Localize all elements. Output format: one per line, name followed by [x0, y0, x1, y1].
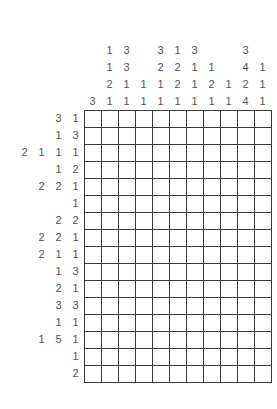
- grid-cell-r5-c7[interactable]: [187, 179, 204, 196]
- grid-cell-r12-c1[interactable]: [85, 298, 102, 315]
- grid-cell-r8-c11[interactable]: [255, 230, 272, 247]
- grid-cell-r1-c2[interactable]: [102, 111, 119, 128]
- grid-cell-r16-c10[interactable]: [238, 366, 255, 383]
- grid-cell-r10-c10[interactable]: [238, 264, 255, 281]
- grid-cell-r15-c6[interactable]: [170, 349, 187, 366]
- grid-cell-r14-c8[interactable]: [204, 332, 221, 349]
- grid-cell-r9-c4[interactable]: [136, 247, 153, 264]
- grid-cell-r16-c8[interactable]: [204, 366, 221, 383]
- grid-cell-r2-c7[interactable]: [187, 128, 204, 145]
- grid-cell-r11-c10[interactable]: [238, 281, 255, 298]
- grid-cell-r1-c6[interactable]: [170, 111, 187, 128]
- grid-cell-r14-c11[interactable]: [255, 332, 272, 349]
- grid-cell-r2-c4[interactable]: [136, 128, 153, 145]
- grid-cell-r13-c6[interactable]: [170, 315, 187, 332]
- grid-cell-r11-c5[interactable]: [153, 281, 170, 298]
- grid-cell-r6-c7[interactable]: [187, 196, 204, 213]
- grid-cell-r5-c9[interactable]: [221, 179, 238, 196]
- grid-cell-r5-c11[interactable]: [255, 179, 272, 196]
- grid-cell-r15-c7[interactable]: [187, 349, 204, 366]
- grid-cell-r16-c4[interactable]: [136, 366, 153, 383]
- grid-cell-r16-c7[interactable]: [187, 366, 204, 383]
- grid-cell-r3-c2[interactable]: [102, 145, 119, 162]
- grid-cell-r2-c8[interactable]: [204, 128, 221, 145]
- nonogram-grid[interactable]: [84, 110, 272, 383]
- grid-cell-r15-c5[interactable]: [153, 349, 170, 366]
- grid-cell-r6-c5[interactable]: [153, 196, 170, 213]
- grid-cell-r5-c8[interactable]: [204, 179, 221, 196]
- grid-cell-r8-c8[interactable]: [204, 230, 221, 247]
- grid-cell-r9-c2[interactable]: [102, 247, 119, 264]
- grid-cell-r10-c9[interactable]: [221, 264, 238, 281]
- grid-cell-r4-c11[interactable]: [255, 162, 272, 179]
- grid-cell-r12-c6[interactable]: [170, 298, 187, 315]
- grid-cell-r14-c6[interactable]: [170, 332, 187, 349]
- grid-cell-r3-c11[interactable]: [255, 145, 272, 162]
- grid-cell-r9-c6[interactable]: [170, 247, 187, 264]
- grid-cell-r11-c4[interactable]: [136, 281, 153, 298]
- grid-cell-r16-c11[interactable]: [255, 366, 272, 383]
- grid-cell-r1-c9[interactable]: [221, 111, 238, 128]
- grid-cell-r4-c8[interactable]: [204, 162, 221, 179]
- grid-cell-r3-c10[interactable]: [238, 145, 255, 162]
- grid-cell-r14-c1[interactable]: [85, 332, 102, 349]
- grid-cell-r4-c7[interactable]: [187, 162, 204, 179]
- grid-cell-r3-c4[interactable]: [136, 145, 153, 162]
- grid-cell-r8-c6[interactable]: [170, 230, 187, 247]
- grid-cell-r9-c9[interactable]: [221, 247, 238, 264]
- grid-cell-r6-c10[interactable]: [238, 196, 255, 213]
- grid-cell-r1-c10[interactable]: [238, 111, 255, 128]
- grid-cell-r2-c10[interactable]: [238, 128, 255, 145]
- grid-cell-r15-c8[interactable]: [204, 349, 221, 366]
- grid-cell-r6-c11[interactable]: [255, 196, 272, 213]
- grid-cell-r10-c1[interactable]: [85, 264, 102, 281]
- grid-cell-r8-c5[interactable]: [153, 230, 170, 247]
- grid-cell-r2-c3[interactable]: [119, 128, 136, 145]
- grid-cell-r4-c4[interactable]: [136, 162, 153, 179]
- grid-cell-r4-c2[interactable]: [102, 162, 119, 179]
- grid-cell-r10-c8[interactable]: [204, 264, 221, 281]
- grid-cell-r7-c7[interactable]: [187, 213, 204, 230]
- grid-cell-r13-c3[interactable]: [119, 315, 136, 332]
- grid-cell-r6-c3[interactable]: [119, 196, 136, 213]
- grid-cell-r13-c8[interactable]: [204, 315, 221, 332]
- grid-cell-r11-c6[interactable]: [170, 281, 187, 298]
- grid-cell-r12-c7[interactable]: [187, 298, 204, 315]
- grid-cell-r11-c3[interactable]: [119, 281, 136, 298]
- grid-cell-r9-c1[interactable]: [85, 247, 102, 264]
- grid-cell-r13-c11[interactable]: [255, 315, 272, 332]
- grid-cell-r13-c9[interactable]: [221, 315, 238, 332]
- grid-cell-r11-c1[interactable]: [85, 281, 102, 298]
- grid-cell-r3-c5[interactable]: [153, 145, 170, 162]
- grid-cell-r12-c2[interactable]: [102, 298, 119, 315]
- grid-cell-r10-c2[interactable]: [102, 264, 119, 281]
- grid-cell-r2-c1[interactable]: [85, 128, 102, 145]
- grid-cell-r10-c3[interactable]: [119, 264, 136, 281]
- grid-cell-r7-c11[interactable]: [255, 213, 272, 230]
- grid-cell-r1-c8[interactable]: [204, 111, 221, 128]
- grid-cell-r1-c3[interactable]: [119, 111, 136, 128]
- grid-cell-r4-c10[interactable]: [238, 162, 255, 179]
- grid-cell-r8-c7[interactable]: [187, 230, 204, 247]
- grid-cell-r8-c2[interactable]: [102, 230, 119, 247]
- grid-cell-r7-c9[interactable]: [221, 213, 238, 230]
- grid-cell-r16-c3[interactable]: [119, 366, 136, 383]
- grid-cell-r15-c10[interactable]: [238, 349, 255, 366]
- grid-cell-r12-c11[interactable]: [255, 298, 272, 315]
- grid-cell-r13-c5[interactable]: [153, 315, 170, 332]
- grid-cell-r12-c5[interactable]: [153, 298, 170, 315]
- grid-cell-r10-c5[interactable]: [153, 264, 170, 281]
- grid-cell-r7-c8[interactable]: [204, 213, 221, 230]
- grid-cell-r10-c6[interactable]: [170, 264, 187, 281]
- grid-cell-r12-c10[interactable]: [238, 298, 255, 315]
- grid-cell-r14-c5[interactable]: [153, 332, 170, 349]
- grid-cell-r9-c8[interactable]: [204, 247, 221, 264]
- grid-cell-r11-c7[interactable]: [187, 281, 204, 298]
- grid-cell-r7-c6[interactable]: [170, 213, 187, 230]
- grid-cell-r9-c7[interactable]: [187, 247, 204, 264]
- grid-cell-r12-c3[interactable]: [119, 298, 136, 315]
- grid-cell-r14-c3[interactable]: [119, 332, 136, 349]
- grid-cell-r1-c11[interactable]: [255, 111, 272, 128]
- grid-cell-r4-c5[interactable]: [153, 162, 170, 179]
- grid-cell-r5-c1[interactable]: [85, 179, 102, 196]
